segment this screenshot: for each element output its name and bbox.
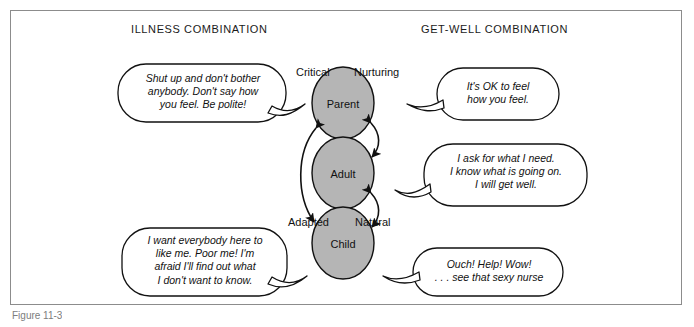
bubble-text-child-illness: I want everybody here to like me. Poor m… xyxy=(130,234,280,287)
qualifier-label-nurturing: Nurturing xyxy=(354,66,399,78)
header-getwell-combination: GET-WELL COMBINATION xyxy=(421,23,568,35)
bubble-text-parent-illness: Shut up and don't bother anybody. Don't … xyxy=(128,72,278,112)
qualifier-label-natural: Natural xyxy=(355,216,390,228)
ego-state-label-parent: Parent xyxy=(313,98,373,110)
bubble-text-adult-getwell: I ask for what I need. I know what is go… xyxy=(430,152,582,192)
ego-state-label-adult: Adult xyxy=(313,168,373,180)
figure-canvas: ILLNESS COMBINATION GET-WELL COMBINATION… xyxy=(0,0,694,327)
figure-caption: Figure 11-3 xyxy=(12,310,62,324)
ego-state-label-child: Child xyxy=(313,238,373,250)
bubble-text-parent-getwell: It's OK to feel how you feel. xyxy=(444,80,552,106)
header-illness-combination: ILLNESS COMBINATION xyxy=(131,23,268,35)
qualifier-label-critical: Critical xyxy=(296,66,330,78)
qualifier-label-adapted: Adapted xyxy=(288,216,329,228)
bubble-text-child-getwell: Ouch! Help! Wow! . . . see that sexy nur… xyxy=(419,258,559,284)
